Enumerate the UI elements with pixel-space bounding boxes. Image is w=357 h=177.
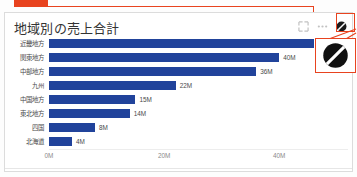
bar-value-label: 4M: [76, 138, 85, 145]
category-label: 近畿地方: [5, 39, 49, 48]
bar-track: [49, 37, 348, 51]
bar-track: 15M: [49, 93, 348, 107]
card-bottom-rule: [5, 168, 352, 169]
bar-row[interactable]: 中国地方 15M: [5, 93, 348, 107]
x-axis-tick-label: 40M: [273, 152, 285, 159]
category-label: 北海道: [5, 137, 49, 146]
bar-value-label: 8M: [99, 124, 108, 131]
category-label: 東北地方: [5, 109, 49, 118]
bar-value-label: 14M: [134, 110, 146, 117]
bar[interactable]: [49, 39, 314, 48]
annotation-connector-line: [14, 6, 314, 7]
bar-rows: 近畿地方 関東地方 40M 中部地方: [5, 37, 348, 145]
clear-filter-icon-magnified: [316, 39, 355, 72]
bar-row[interactable]: 中部地方 36M: [5, 65, 348, 79]
category-label: 関東地方: [5, 53, 49, 62]
bar-row[interactable]: 四国 8M: [5, 121, 348, 135]
screenshot-root: 地域別の売上合計: [0, 0, 357, 177]
chart-card: 地域別の売上合計: [4, 12, 353, 172]
x-axis-line: [49, 149, 348, 150]
bar-row[interactable]: 東北地方 14M: [5, 107, 348, 121]
bar[interactable]: [49, 109, 130, 118]
bar[interactable]: [49, 53, 279, 62]
bar-value-label: 40M: [283, 54, 295, 61]
bar-row[interactable]: 近畿地方: [5, 37, 348, 51]
bar-track: 8M: [49, 121, 348, 135]
category-label: 中部地方: [5, 67, 49, 76]
bar-track: 22M: [49, 79, 348, 93]
chart-title: 地域別の売上合計: [14, 18, 120, 37]
bar-row[interactable]: 九州 22M: [5, 79, 348, 93]
more-options-icon[interactable]: [317, 18, 328, 29]
category-label: 四国: [5, 123, 49, 132]
annotation-magnified-inset: [315, 38, 356, 73]
bar[interactable]: [49, 67, 256, 76]
bar-value-label: 36M: [260, 68, 272, 75]
focus-mode-icon[interactable]: [298, 18, 309, 29]
bar[interactable]: [49, 137, 72, 146]
bar[interactable]: [49, 123, 95, 132]
bar[interactable]: [49, 81, 176, 90]
x-axis-tick-label: 20M: [158, 152, 170, 159]
annotation-highlight-box: [336, 13, 355, 32]
bar-track: 4M: [49, 134, 348, 148]
bar-track: 14M: [49, 107, 348, 121]
bar-value-label: 22M: [180, 82, 192, 89]
category-label: 中国地方: [5, 95, 49, 104]
bar-track: 36M: [49, 65, 348, 79]
x-axis: 0M 20M 40M: [49, 149, 348, 165]
bar[interactable]: [49, 95, 135, 104]
bar-row[interactable]: 関東地方 40M: [5, 51, 348, 65]
x-axis-tick-label: 0M: [45, 152, 54, 159]
bar-value-label: 15M: [139, 96, 151, 103]
bar-track: 40M: [49, 51, 348, 65]
category-label: 九州: [5, 81, 49, 90]
bar-row[interactable]: 北海道 4M: [5, 134, 348, 148]
plot-area: 近畿地方 関東地方 40M 中部地方: [5, 37, 352, 171]
